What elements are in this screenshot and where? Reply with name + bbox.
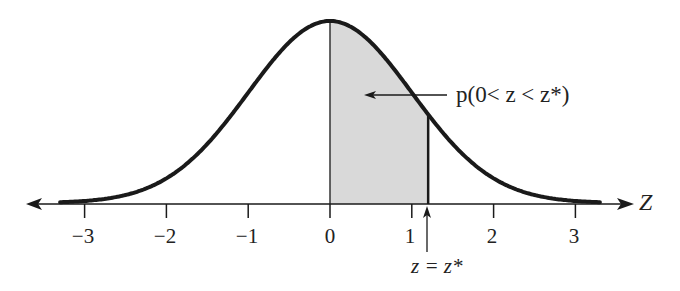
tick-label-1: 1 [405, 224, 416, 249]
axis-ticks [85, 204, 576, 218]
tick-label-neg1: −1 [236, 224, 258, 249]
probability-region-label: p(0< z < z*) [456, 82, 569, 108]
tick-label-neg3: −3 [72, 224, 94, 249]
axis-label-z: Z [639, 189, 652, 216]
tick-label-3: 3 [569, 224, 580, 249]
tick-label-2: 2 [487, 224, 498, 249]
tick-label-0: 0 [325, 224, 336, 249]
z-star-label: z = z* [411, 254, 463, 279]
tick-label-neg2: −2 [154, 224, 176, 249]
